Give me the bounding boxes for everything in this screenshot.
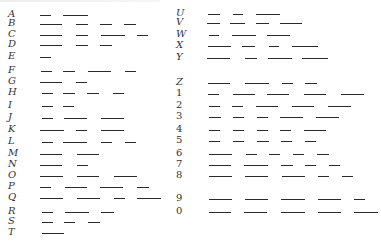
dash-mark	[65, 212, 89, 213]
dash-mark	[42, 233, 64, 234]
dot-mark	[137, 35, 148, 36]
dot-mark	[209, 130, 220, 131]
dot-mark	[42, 222, 53, 223]
row-label: X	[176, 40, 183, 50]
dot-mark	[42, 93, 53, 94]
dot-mark	[230, 23, 245, 24]
dash-mark	[318, 199, 341, 200]
dot-mark	[232, 106, 243, 107]
dash-mark	[244, 165, 268, 166]
row-label: V	[176, 17, 183, 27]
row-label: 5	[176, 135, 182, 145]
dash-mark	[304, 130, 326, 131]
dot-mark	[87, 93, 99, 94]
dot-mark	[281, 165, 293, 166]
dot-mark	[282, 83, 293, 84]
row-label: 9	[176, 193, 182, 203]
dash-mark	[40, 82, 62, 83]
dash-mark	[354, 212, 378, 213]
row-label: 6	[176, 148, 182, 158]
dash-mark	[302, 58, 328, 59]
row-label: N	[8, 159, 17, 169]
dot-mark	[101, 212, 114, 213]
row-label: P	[8, 181, 15, 191]
dot-mark	[305, 141, 316, 142]
dot-mark	[256, 23, 269, 24]
dash-mark	[114, 176, 137, 177]
dash-mark	[267, 94, 289, 95]
dash-mark	[88, 71, 111, 72]
dot-mark	[42, 212, 53, 213]
dash-mark	[281, 199, 305, 200]
dot-mark	[124, 24, 136, 25]
dot-mark	[257, 130, 268, 131]
dot-mark	[88, 222, 100, 223]
dash-mark	[65, 187, 87, 188]
dash-mark	[245, 199, 268, 200]
dash-mark	[292, 106, 314, 107]
dot-mark	[209, 117, 221, 118]
dot-mark	[208, 94, 219, 95]
dot-mark	[63, 106, 74, 107]
row-label: W	[176, 29, 186, 39]
dot-mark	[317, 154, 329, 155]
dot-mark	[354, 199, 365, 200]
dot-mark	[305, 165, 316, 166]
dot-mark	[76, 82, 87, 83]
dash-mark	[209, 199, 232, 200]
dot-mark	[100, 24, 112, 25]
dash-mark	[232, 35, 256, 36]
dash-mark	[244, 212, 267, 213]
dash-mark	[341, 94, 364, 95]
dot-mark	[63, 93, 75, 94]
dash-mark	[209, 165, 231, 166]
dash-mark	[328, 106, 351, 107]
row-label: L	[8, 136, 15, 146]
dash-mark	[209, 176, 232, 177]
dash-mark	[101, 35, 125, 36]
dot-mark	[207, 23, 220, 24]
dot-mark	[233, 130, 244, 131]
row-label: 2	[176, 100, 182, 110]
dot-mark	[293, 154, 304, 155]
row-label: Z	[176, 77, 183, 87]
dot-mark	[77, 165, 88, 166]
dot-mark	[76, 24, 88, 25]
row-label: F	[8, 65, 15, 75]
row-label: M	[8, 148, 18, 158]
dash-mark	[280, 117, 303, 118]
dot-mark	[100, 45, 112, 46]
dot-mark	[269, 46, 279, 47]
row-label: T	[8, 227, 15, 237]
dash-mark	[209, 212, 231, 213]
dot-mark	[305, 83, 317, 84]
dash-mark	[77, 154, 99, 155]
dash-mark	[245, 83, 269, 84]
dot-mark	[209, 106, 220, 107]
dot-mark	[233, 117, 244, 118]
dash-mark	[77, 198, 100, 199]
dot-mark	[233, 141, 244, 142]
dot-mark	[42, 118, 53, 119]
dot-mark	[137, 187, 149, 188]
dash-mark	[245, 176, 268, 177]
dash-mark	[64, 118, 87, 119]
row-label: O	[8, 170, 16, 180]
row-label: 8	[176, 170, 182, 180]
dash-mark	[40, 130, 64, 131]
dot-mark	[329, 165, 340, 166]
row-label: 4	[176, 124, 182, 134]
dot-mark	[246, 154, 257, 155]
row-label: 7	[176, 159, 182, 169]
dot-mark	[125, 71, 136, 72]
dash-mark	[40, 165, 62, 166]
dash-mark	[208, 46, 231, 47]
dash-mark	[267, 35, 290, 36]
dot-mark	[64, 222, 75, 223]
dash-mark	[40, 176, 63, 177]
dot-mark	[41, 71, 52, 72]
row-label: 1	[176, 88, 182, 98]
dash-mark	[40, 45, 62, 46]
dot-mark	[318, 176, 329, 177]
dot-mark	[209, 141, 220, 142]
